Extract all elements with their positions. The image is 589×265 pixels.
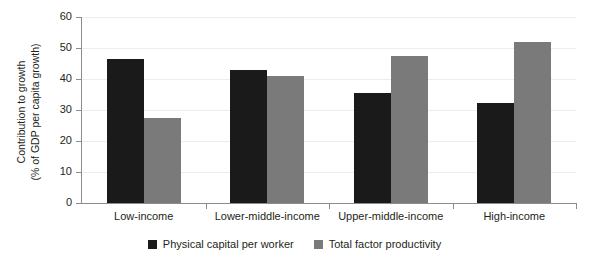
legend-swatch-icon: [314, 240, 323, 249]
bar-physical-capital[interactable]: [107, 59, 144, 203]
y-axis-tick-label: 0: [0, 196, 72, 208]
y-axis-tick-label: 50: [0, 41, 72, 53]
bar-group: [230, 17, 304, 203]
y-axis-tick-label: 60: [0, 10, 72, 22]
bar-physical-capital[interactable]: [230, 70, 267, 203]
bar-total-factor-productivity[interactable]: [144, 118, 181, 203]
legend-item[interactable]: Total factor productivity: [314, 238, 442, 250]
x-axis-tick-mark: [206, 203, 207, 209]
y-axis-tick-label: 40: [0, 72, 72, 84]
x-axis-label-high-income: High-income: [453, 210, 577, 222]
bar-group: [354, 17, 428, 203]
x-axis-tick-mark: [453, 203, 454, 209]
y-axis-tick-label: 10: [0, 165, 72, 177]
x-axis-label-low-income: Low-income: [82, 210, 206, 222]
bar-physical-capital[interactable]: [477, 103, 514, 203]
legend-swatch-icon: [148, 240, 157, 249]
legend-item[interactable]: Physical capital per worker: [148, 238, 294, 250]
x-axis-label-lower-middle-income: Lower-middle-income: [206, 210, 330, 222]
bar-chart: Contribution to growth (% of GDP per cap…: [0, 0, 589, 265]
bar-total-factor-productivity[interactable]: [391, 56, 428, 203]
bar-physical-capital[interactable]: [354, 93, 391, 203]
chart-legend: Physical capital per workerTotal factor …: [0, 238, 589, 250]
bar-total-factor-productivity[interactable]: [267, 76, 304, 203]
x-axis-label-upper-middle-income: Upper-middle-income: [329, 210, 453, 222]
plot-area: [82, 17, 576, 203]
x-axis-tick-mark: [329, 203, 330, 209]
bar-group: [107, 17, 181, 203]
legend-label: Physical capital per worker: [163, 238, 294, 250]
y-axis-tick-label: 20: [0, 134, 72, 146]
x-axis-tick-mark: [576, 203, 577, 209]
bar-group: [477, 17, 551, 203]
y-axis-tick-label: 30: [0, 103, 72, 115]
legend-label: Total factor productivity: [329, 238, 442, 250]
bar-total-factor-productivity[interactable]: [514, 42, 551, 203]
